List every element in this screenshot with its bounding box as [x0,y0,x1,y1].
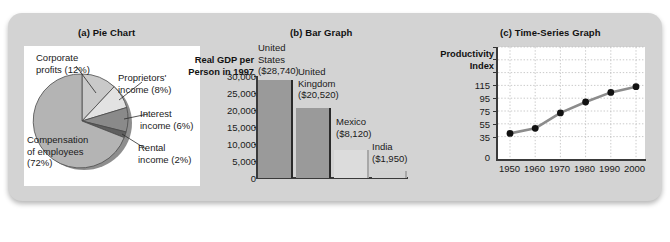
panel-b-title: (b) Bar Graph [290,27,353,38]
time-series-point-1960 [532,125,539,132]
bar-caption-india: India ($1,950) [372,141,407,164]
pie-label-interest-income-line1: Interest [140,108,193,120]
pie-label-compensation-of-employees: Compensation of employees (72%) [27,134,88,169]
bar-caption-united-kingdom-line3: ($20,520) [298,89,339,101]
bar-caption-united-states: United States ($28,740) [258,42,299,77]
time-series-x-axis [496,159,646,161]
pie-label-proprietors-income-line2: income (8%) [118,84,171,96]
time-series-gridlines-vertical [510,47,636,159]
pie-label-interest-income-line2: income (6%) [140,120,193,132]
time-series-ytick-95: 95 [479,93,490,104]
time-series-point-2000 [633,83,640,90]
bar-caption-united-kingdom: United Kingdom ($20,520) [298,66,339,101]
pie-label-rental-income: Rental income (2%) [138,142,191,165]
bar-caption-mexico: Mexico ($8,120) [336,116,371,139]
pie-label-corporate-profits-line2: profits (12%) [36,64,90,76]
bar-caption-united-states-line2: States [258,54,299,66]
time-series-y-axis [496,47,498,160]
time-series-ytick-115: 115 [475,80,490,91]
time-series-data-line [510,87,636,134]
bar-united-states [258,80,293,178]
time-series-ytick-75: 75 [479,106,490,117]
bar-graph-ytick-5000: 5,000 [232,156,256,167]
time-series-xtick-1970: 1970 [549,163,570,174]
time-series-point-1970 [557,110,564,117]
time-series-point-1980 [582,99,589,106]
bar-graph-ytick-15000: 15,000 [227,122,256,133]
pie-label-interest-income: Interest income (6%) [140,108,193,131]
time-series-xtick-1980: 1980 [574,163,595,174]
time-series-point-1950 [507,130,514,137]
time-series-ytick-55: 55 [479,119,490,130]
time-series-gridlines-horizontal [498,47,645,137]
bar-graph: Real GDP per Person in 1997 30,000 25,00… [196,44,412,192]
bar-mexico [334,150,369,178]
pie-label-compensation-line1: Compensation [27,134,88,146]
bar-graph-y-axis-title-line1: Real GDP per [174,54,254,66]
pie-label-proprietors-income: Proprietors' income (8%) [118,72,171,95]
bar-graph-ytick-25000: 25,000 [227,88,256,99]
time-series-graph: Productivity Index [428,44,660,194]
time-series-xtick-1990: 1990 [599,163,620,174]
pie-label-rental-income-line2: income (2%) [138,154,191,166]
panel-a-title: (a) Pie Chart [78,27,135,38]
time-series-ytick-0: 0 [485,152,490,163]
bar-caption-united-kingdom-line2: Kingdom [298,78,339,90]
bar-graph-ytick-30000: 30,000 [227,71,256,82]
bar-caption-united-states-line1: United [258,42,299,54]
time-series-xtick-2000: 2000 [624,163,645,174]
bar-india [372,171,407,178]
pie-label-compensation-line3: (72%) [27,157,88,169]
bar-caption-united-states-line3: ($28,740) [258,65,299,77]
bar-caption-india-line2: ($1,950) [372,153,407,165]
pie-label-rental-income-line1: Rental [138,142,191,154]
bar-caption-united-kingdom-line1: United [298,66,339,78]
bar-graph-ytick-10000: 10,000 [227,139,256,150]
bar-caption-mexico-line2: ($8,120) [336,128,371,140]
time-series-point-1990 [607,89,614,96]
time-series-xtick-1960: 1960 [524,163,545,174]
pie-label-corporate-profits: Corporate profits (12%) [36,52,90,75]
figure-root: (a) Pie Chart (b) Bar Graph (c) Time-Ser… [0,0,670,242]
bar-caption-mexico-line1: Mexico [336,116,371,128]
time-series-ytick-35: 35 [479,132,490,143]
panel-c-title: (c) Time-Series Graph [500,27,601,38]
pie-label-compensation-line2: of employees [27,146,88,158]
time-series-xtick-1950: 1950 [499,163,520,174]
bar-caption-india-line1: India [372,141,407,153]
bar-united-kingdom [296,108,331,178]
pie-label-proprietors-income-line1: Proprietors' [118,72,171,84]
pie-label-corporate-profits-line1: Corporate [36,52,90,64]
bar-graph-ytick-20000: 20,000 [227,105,256,116]
